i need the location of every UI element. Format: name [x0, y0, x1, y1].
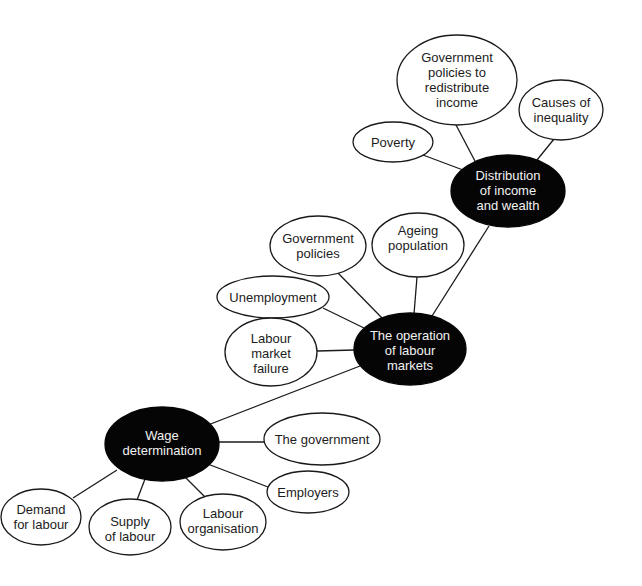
svg-text:The operation: The operation	[370, 328, 450, 343]
svg-text:Supply: Supply	[110, 514, 150, 529]
edge-wage-supply	[137, 479, 145, 500]
svg-text:and wealth: and wealth	[477, 198, 540, 213]
svg-text:of labour: of labour	[385, 343, 436, 358]
svg-text:Labour: Labour	[203, 506, 244, 521]
svg-text:organisation: organisation	[188, 521, 259, 536]
node-causes-inequality: Causes of inequality	[519, 80, 603, 140]
edge-wage-employers	[205, 463, 268, 487]
node-labour-organisation: Labour organisation	[180, 494, 266, 550]
edge-operation-unemployment	[323, 308, 364, 328]
svg-text:policies to: policies to	[428, 65, 486, 80]
svg-text:Government: Government	[421, 50, 493, 65]
svg-text:failure: failure	[253, 361, 288, 376]
node-unemployment: Unemployment	[217, 276, 329, 318]
svg-text:market: market	[251, 346, 291, 361]
svg-text:The government: The government	[275, 432, 370, 447]
edge-distribution-poverty	[423, 155, 463, 170]
svg-text:Government: Government	[282, 231, 354, 246]
edge-operation-market-failure	[317, 350, 355, 351]
node-demand-for-labour: Demand for labour	[1, 489, 81, 545]
edge-distribution-gov-redistribute	[455, 123, 476, 163]
node-poverty: Poverty	[353, 122, 433, 162]
node-ageing-population: Ageing population	[372, 213, 464, 277]
svg-text:Causes of: Causes of	[532, 95, 591, 110]
svg-text:markets: markets	[387, 358, 434, 373]
svg-text:for labour: for labour	[14, 517, 70, 532]
node-government-policies: Government policies	[270, 216, 366, 276]
node-operation-of-labour-markets: The operation of labour markets	[354, 313, 466, 385]
edge-wage-organisation	[184, 476, 205, 497]
svg-text:income: income	[436, 95, 478, 110]
svg-text:Unemployment: Unemployment	[229, 290, 317, 305]
node-distribution-of-income-and-wealth: Distribution of income and wealth	[451, 155, 565, 227]
svg-text:policies: policies	[296, 246, 340, 261]
edge-operation-ageing	[414, 277, 417, 314]
edge-distribution-causes-inequality	[537, 139, 554, 160]
svg-text:Ageing: Ageing	[398, 223, 438, 238]
mind-map-diagram: Government policies to redistribute inco…	[0, 0, 642, 586]
node-wage-determination: Wage determination	[105, 407, 219, 481]
svg-text:population: population	[388, 238, 448, 253]
node-supply-of-labour: Supply of labour	[89, 499, 171, 555]
node-gov-redistribute: Government policies to redistribute inco…	[397, 35, 517, 125]
svg-text:Distribution: Distribution	[475, 168, 540, 183]
svg-text:of income: of income	[480, 183, 536, 198]
edge-operation-gov-policies	[338, 273, 382, 318]
svg-text:Wage: Wage	[145, 428, 178, 443]
svg-text:of labour: of labour	[105, 529, 156, 544]
edge-wage-demand	[73, 470, 117, 498]
svg-text:Employers: Employers	[277, 485, 339, 500]
node-labour-market-failure: Labour market failure	[225, 318, 317, 386]
node-the-government: The government	[264, 413, 380, 465]
node-employers: Employers	[267, 471, 349, 513]
svg-text:Labour: Labour	[251, 331, 292, 346]
svg-text:inequality: inequality	[534, 110, 589, 125]
svg-text:determination: determination	[123, 443, 202, 458]
svg-text:Poverty: Poverty	[371, 135, 416, 150]
svg-text:Demand: Demand	[16, 502, 65, 517]
svg-text:redistribute: redistribute	[425, 80, 489, 95]
